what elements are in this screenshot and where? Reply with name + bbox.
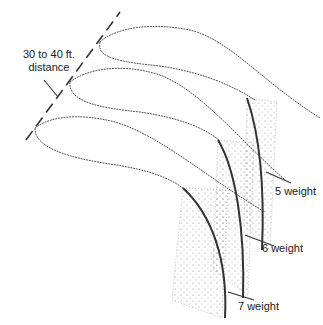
distance-label: 30 to 40 ft. distance	[18, 48, 80, 74]
label-7-weight: 7 weight	[238, 300, 279, 313]
label-6-weight: 6 weight	[262, 242, 303, 255]
leader-7-weight	[228, 292, 254, 300]
distance-dashed-line	[26, 12, 120, 140]
loop-top	[100, 26, 320, 118]
distance-leader-line	[44, 80, 58, 97]
distance-label-line1: 30 to 40 ft.	[18, 48, 80, 61]
label-5-weight: 5 weight	[275, 185, 316, 198]
distance-label-line2: distance	[18, 61, 80, 74]
fly-line-weight-diagram: 30 to 40 ft. distance 5 weight 6 weight …	[0, 0, 323, 325]
